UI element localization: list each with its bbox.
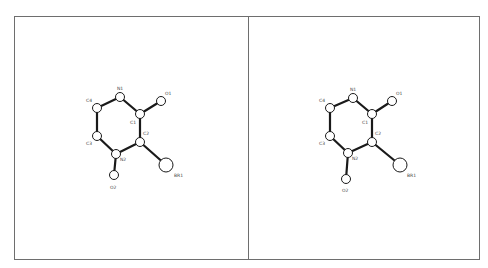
- atom-br1: [393, 158, 407, 172]
- atom-label-n1: N1: [350, 87, 356, 92]
- stereo-panel-left: N1C4C3N2O2C1O1C2BR1: [86, 86, 183, 190]
- atom-label-c1: C1: [130, 120, 136, 125]
- atom-c4: [93, 104, 102, 113]
- atom-label-c2: C2: [375, 131, 381, 136]
- atom-c1: [368, 110, 377, 119]
- molecule-canvas: N1C4C3N2O2C1O1C2BR1 N1C4C3N2O2C1O1C2BR1: [0, 0, 488, 268]
- atom-label-c1: C1: [362, 120, 368, 125]
- atom-c4: [326, 104, 335, 113]
- stereo-panel-right: N1C4C3N2O2C1O1C2BR1: [319, 87, 416, 193]
- atom-c2: [136, 138, 145, 147]
- atom-label-o2: O2: [110, 185, 117, 190]
- atom-label-c3: C3: [319, 141, 325, 146]
- atom-label-br1: BR1: [407, 173, 416, 178]
- atom-label-o1: O1: [165, 91, 172, 96]
- atom-label-c3: C3: [86, 141, 92, 146]
- atom-n1: [349, 94, 358, 103]
- atom-c3: [326, 132, 335, 141]
- atom-o1: [157, 97, 166, 106]
- atom-o2: [342, 175, 351, 184]
- atom-label-o1: O1: [396, 91, 403, 96]
- atom-c1: [136, 110, 145, 119]
- atom-label-o2: O2: [342, 188, 349, 193]
- atom-c3: [93, 132, 102, 141]
- atom-label-c2: C2: [143, 131, 149, 136]
- atom-n1: [116, 93, 125, 102]
- atom-o1: [388, 97, 397, 106]
- atom-c2: [368, 138, 377, 147]
- atom-label-br1: BR1: [174, 173, 183, 178]
- atom-label-c4: C4: [86, 98, 92, 103]
- atom-label-c4: C4: [319, 98, 325, 103]
- atom-label-n1: N1: [117, 86, 123, 91]
- atom-br1: [159, 158, 173, 172]
- atom-o2: [110, 171, 119, 180]
- atom-label-n2: N2: [352, 156, 358, 161]
- atom-label-n2: N2: [120, 157, 126, 162]
